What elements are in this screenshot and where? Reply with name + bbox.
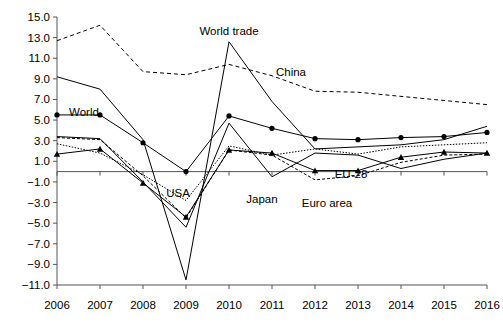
series-label-layer	[0, 0, 503, 335]
line-chart: 15.013.011.09.07.05.03.01.0−1.0−3.0−5.0−…	[0, 0, 503, 335]
